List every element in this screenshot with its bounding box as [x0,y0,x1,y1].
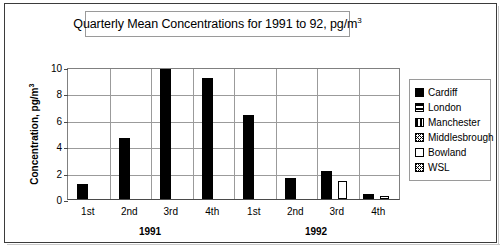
frame-shadow-right [498,6,499,245]
vertical-lines-swatch-icon [415,118,424,127]
legend-label-manchester: Manchester [428,117,480,128]
chart-title-box: Quarterly Mean Concentrations for 1991 t… [85,11,350,37]
legend-label-cardiff: Cardiff [428,87,457,98]
x-tick-label-1992-q2: 2nd [275,206,315,217]
chart-title-superscript: 3 [357,16,361,25]
chart-title: Quarterly Mean Concentrations for 1991 t… [73,16,361,31]
gridline-x-1 [110,69,111,199]
x-tick-label-1992-q4: 4th [358,206,398,217]
y-tick-mark-10 [64,69,68,70]
legend-item-middlesbrough: Middlesbrough [415,130,486,145]
bar-cardiff-1991-q1 [77,184,88,199]
y-axis-title-superscript: 3 [28,84,35,88]
x-tick-label-1991-q2: 2nd [109,206,149,217]
y-tick-mark-0 [64,201,68,202]
gridline-x-5 [276,69,277,199]
gridline-x-6 [317,69,318,199]
chart-legend: Cardiff London Manchester Middlesbrough … [409,79,491,181]
y-tick-mark-6 [64,122,68,123]
gridline-x-2 [151,69,152,199]
bar-bowland-1992-q3 [338,181,347,199]
empty-white-swatch-icon [415,148,424,157]
x-tick-label-1992-q1: 1st [234,206,274,217]
chart-title-main: Quarterly Mean Concentrations for 1991 t… [73,18,357,32]
x-tick-label-1991-q1: 1st [68,206,108,217]
plot-area [67,68,400,200]
year-label-1992: 1992 [286,226,346,237]
y-tick-label-2: 2 [40,168,62,179]
legend-item-cardiff: Cardiff [415,85,486,100]
bar-cardiff-1992-q3 [321,171,332,199]
year-label-1991: 1991 [120,226,180,237]
gridline-x-3 [193,69,194,199]
cross-hatch-swatch-icon [415,133,424,142]
y-tick-label-8: 8 [40,89,62,100]
y-tick-mark-2 [64,175,68,176]
legend-label-wsl: WSL [428,162,450,173]
y-tick-label-10: 10 [40,63,62,74]
chart-screenshot: Quarterly Mean Concentrations for 1991 t… [0,0,503,252]
solid-black-swatch-icon [415,88,424,97]
cross-hatch-swatch-icon-2 [415,163,424,172]
legend-item-manchester: Manchester [415,115,486,130]
legend-label-london: London [428,102,461,113]
y-axis-title-main: Concentration, pg/m [29,88,40,185]
legend-label-bowland: Bowland [428,147,466,158]
x-tick-label-1991-q4: 4th [192,206,232,217]
gridline-x-4 [234,69,235,199]
y-tick-label-4: 4 [40,142,62,153]
bar-cardiff-1992-q1 [243,115,254,199]
bar-cardiff-1992-q4 [363,194,374,199]
horizontal-lines-swatch-icon [415,103,424,112]
legend-item-wsl: WSL [415,160,486,175]
y-tick-mark-8 [64,95,68,96]
y-tick-mark-4 [64,148,68,149]
y-tick-label-0: 0 [40,195,62,206]
bar-cardiff-1992-q2 [285,178,296,199]
y-tick-label-6: 6 [40,115,62,126]
y-axis-title: Concentration, pg/m3 [28,69,40,199]
legend-item-london: London [415,100,486,115]
bar-cardiff-1991-q4 [202,78,213,199]
legend-label-middlesbrough: Middlesbrough [428,132,494,143]
legend-item-bowland: Bowland [415,145,486,160]
bar-cardiff-1991-q2 [119,138,130,199]
x-tick-label-1992-q3: 3rd [317,206,357,217]
bar-cardiff-1991-q3 [160,69,171,199]
bar-bowland-1992-q4 [380,196,389,200]
gridline-x-7 [359,69,360,199]
frame-shadow-bottom [7,244,500,245]
x-tick-label-1991-q3: 3rd [151,206,191,217]
